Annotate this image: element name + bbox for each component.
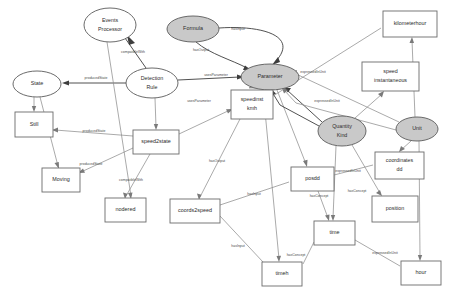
graph-svg: producedState compatibleWith usesParamet… bbox=[0, 0, 455, 303]
edge-label-usesParameter-1: usesParameter bbox=[204, 73, 229, 77]
node-speed-instantaneous[interactable]: speed instantaneous bbox=[362, 62, 419, 91]
node-detection-rule[interactable]: Detection Rule bbox=[126, 68, 178, 98]
node-still[interactable]: Still bbox=[15, 112, 53, 137]
node-parameter[interactable]: Parameter bbox=[241, 64, 299, 90]
edge-has-output-formula-parameter bbox=[196, 42, 251, 70]
edge-expressed-in-unit-posdd-coordinatesdd bbox=[334, 165, 373, 175]
edge-has-input-coords2speed-timeh bbox=[220, 216, 263, 262]
edge-has-output-speedinst-coords2speed bbox=[197, 119, 240, 200]
edge-label-producedState-1: producedState bbox=[85, 76, 108, 80]
edge-unit-coordinatesdd bbox=[399, 141, 411, 152]
edge-label-expressedInUnit-4: expressedInUnit bbox=[372, 251, 397, 255]
edge-label-compatibleWith-1: compatibleWith bbox=[121, 50, 145, 54]
edge-eventsprocessor-nodered bbox=[107, 42, 133, 199]
node-events-processor[interactable]: Events Processor bbox=[84, 8, 136, 42]
node-layer: Events Processor Formula State Detection… bbox=[13, 8, 441, 286]
edge-expressed-in-unit-time-hour bbox=[355, 240, 400, 266]
edge-uses-parameter-detectionrule-parameter bbox=[178, 75, 244, 81]
node-hour[interactable]: hour bbox=[401, 261, 441, 285]
node-state[interactable]: State bbox=[13, 71, 61, 97]
edge-quantitykind-speedinstantaneous bbox=[355, 91, 384, 118]
edge-compatible-with-speed2state-nodered bbox=[123, 154, 150, 199]
node-nodered[interactable]: nodered bbox=[105, 198, 146, 222]
edge-produced-state-speed2state-moving bbox=[78, 148, 133, 173]
node-speed2state[interactable]: speed2state bbox=[133, 130, 179, 154]
edge-label-hasInput-3: hasInput bbox=[231, 244, 244, 248]
edge-has-concept-time-timeh bbox=[303, 242, 314, 264]
node-quantity-kind[interactable]: Quantity Kind bbox=[318, 116, 366, 146]
node-coordinates-dd[interactable]: coordinates dd bbox=[375, 152, 424, 179]
edge-compatible-with-eventsprocessor-detectionrule bbox=[125, 35, 146, 68]
node-formula[interactable]: Formula bbox=[167, 16, 219, 42]
edge-has-input-coords2speed-posdd bbox=[220, 182, 289, 205]
edge-produced-state-detectionrule-state bbox=[62, 81, 126, 86]
edge-label-hasOutput-2: hasOutput bbox=[209, 159, 225, 163]
edge-detectionrule-speed2state bbox=[154, 98, 158, 130]
edge-label-usesParameter-2: usesParameter bbox=[187, 99, 212, 103]
node-kilometerhour[interactable]: kilometerhour bbox=[383, 11, 437, 37]
diagram-canvas: producedState compatibleWith usesParamet… bbox=[0, 0, 455, 303]
edge-label-hasConcept-3: hasConcept bbox=[348, 189, 367, 193]
node-time[interactable]: time bbox=[314, 221, 355, 245]
node-timeh[interactable]: timeh bbox=[262, 262, 302, 286]
edge-state-still bbox=[32, 97, 36, 112]
node-moving[interactable]: Moving bbox=[42, 168, 80, 192]
edge-label-expressedInUnit-2: expressedInUnit bbox=[314, 99, 339, 103]
edge-label-compatibleWith-2: compatibleWith bbox=[119, 178, 143, 182]
node-position[interactable]: position bbox=[372, 196, 418, 222]
edge-has-concept-posdd-time bbox=[318, 191, 330, 221]
node-coords2speed[interactable]: coords2speed bbox=[170, 199, 220, 223]
node-unit[interactable]: Unit bbox=[396, 117, 438, 141]
edge-label-hasOutput-1: hasOutput bbox=[193, 48, 209, 52]
edge-uses-parameter-speed2state-speedinst bbox=[179, 109, 233, 134]
edge-label-hasConcept-5: hasConcept bbox=[287, 253, 306, 257]
node-speedinst-kmh[interactable]: speedinst kmh bbox=[231, 90, 273, 119]
node-posdd[interactable]: posdd bbox=[291, 167, 334, 191]
edge-parameter-posdd bbox=[277, 90, 308, 167]
